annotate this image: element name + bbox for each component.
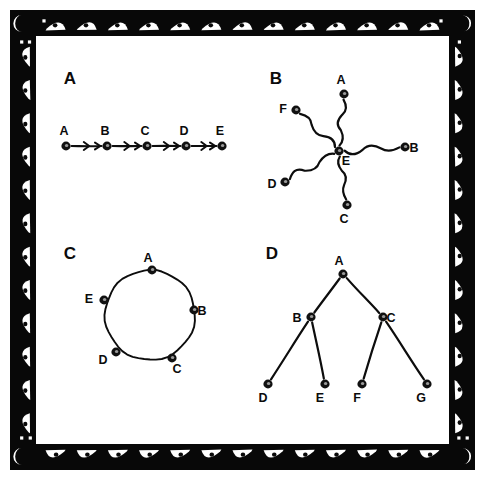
- node-label-panel-d-F: F: [353, 391, 361, 405]
- node-label-panel-b-F: F: [279, 102, 287, 116]
- node-panel-a-A[interactable]: [61, 142, 70, 151]
- node-highlight: [310, 315, 313, 318]
- motif-pupil: [23, 255, 27, 260]
- motif-pupil: [23, 322, 27, 327]
- motif-pupil: [23, 88, 27, 93]
- node-highlight: [343, 92, 346, 95]
- graph-topologies-figure: AABCDEBABCDEFCABCDEDABCDEFG: [0, 0, 485, 480]
- node-label-panel-b-A: A: [336, 73, 345, 87]
- motif-pupil: [23, 155, 27, 160]
- node-panel-c-E[interactable]: [99, 296, 108, 305]
- node-label-panel-b-B: B: [409, 141, 418, 155]
- motif-pupil: [458, 121, 462, 126]
- node-panel-c-D[interactable]: [111, 348, 120, 357]
- border-fleck-0: [20, 40, 23, 43]
- motif-pupil: [458, 54, 462, 59]
- node-label-panel-d-G: G: [416, 391, 426, 405]
- node-highlight: [193, 308, 196, 311]
- node-label-panel-d-C: C: [386, 311, 395, 325]
- node-highlight: [382, 315, 385, 318]
- node-label-panel-a-E: E: [216, 124, 224, 138]
- node-panel-b-B[interactable]: [400, 143, 409, 152]
- motif-pupil: [427, 23, 432, 27]
- motif-pupil: [395, 23, 400, 27]
- node-highlight: [426, 382, 429, 385]
- node-panel-d-D[interactable]: [263, 380, 272, 389]
- node-panel-b-C[interactable]: [342, 201, 351, 210]
- border-fleck-4: [458, 40, 461, 43]
- node-panel-d-B[interactable]: [306, 313, 315, 322]
- motif-pupil: [23, 222, 27, 227]
- node-panel-b-A[interactable]: [339, 90, 348, 99]
- motif-pupil: [428, 453, 433, 457]
- node-panel-a-B[interactable]: [102, 142, 111, 151]
- node-label-panel-c-C: C: [172, 362, 181, 376]
- node-panel-d-G[interactable]: [422, 380, 431, 389]
- node-highlight: [342, 272, 345, 275]
- node-highlight: [361, 382, 364, 385]
- node-highlight: [115, 350, 118, 353]
- node-highlight: [284, 180, 287, 183]
- motif-pupil: [365, 453, 370, 457]
- border-fleck-2: [42, 19, 45, 22]
- node-panel-c-A[interactable]: [147, 266, 156, 275]
- border-fleck-8: [466, 436, 469, 439]
- motif-pupil: [458, 221, 462, 226]
- motif-pupil: [84, 23, 89, 27]
- motif-pupil: [458, 354, 462, 359]
- node-label-panel-d-E: E: [316, 391, 324, 405]
- motif-pupil: [178, 453, 183, 457]
- node-panel-d-A[interactable]: [338, 270, 347, 279]
- node-label-panel-a-A: A: [59, 124, 68, 138]
- node-highlight: [338, 149, 341, 152]
- border-fleck-1: [28, 40, 31, 43]
- motif-pupil: [458, 387, 462, 392]
- motif-pupil: [333, 23, 338, 27]
- node-highlight: [295, 108, 298, 111]
- node-highlight: [324, 382, 327, 385]
- node-highlight: [103, 298, 106, 301]
- motif-pupil: [458, 87, 462, 92]
- node-panel-d-E[interactable]: [320, 380, 329, 389]
- node-panel-a-C[interactable]: [142, 142, 151, 151]
- motif-pupil: [458, 420, 462, 425]
- node-highlight: [404, 145, 407, 148]
- node-highlight: [346, 203, 349, 206]
- motif-pupil: [23, 288, 27, 293]
- node-highlight: [151, 268, 154, 271]
- node-panel-b-D[interactable]: [280, 178, 289, 187]
- motif-pupil: [146, 23, 151, 27]
- node-label-panel-b-C: C: [339, 212, 348, 226]
- node-highlight: [65, 144, 68, 147]
- motif-pupil: [397, 453, 402, 457]
- node-panel-b-F[interactable]: [291, 106, 300, 115]
- motif-pupil: [23, 55, 27, 60]
- node-highlight: [185, 144, 188, 147]
- figure-root: AABCDEBABCDEFCABCDEDABCDEFG: [0, 0, 485, 480]
- node-panel-a-E[interactable]: [217, 142, 226, 151]
- node-highlight: [106, 144, 109, 147]
- motif-pupil: [458, 287, 462, 292]
- motif-pupil: [85, 453, 90, 457]
- motif-pupil: [239, 23, 244, 27]
- motif-pupil: [302, 23, 307, 27]
- border-fleck-7: [457, 436, 460, 439]
- motif-pupil: [23, 188, 27, 193]
- motif-pupil: [53, 23, 58, 27]
- panel-label-c: C: [64, 244, 76, 263]
- motif-pupil: [177, 23, 182, 27]
- node-label-panel-c-E: E: [85, 292, 93, 306]
- border-fleck-5: [20, 436, 23, 439]
- node-label-panel-b-E: E: [342, 154, 350, 168]
- node-highlight: [171, 356, 174, 359]
- node-panel-a-D[interactable]: [181, 142, 190, 151]
- node-panel-d-F[interactable]: [357, 380, 366, 389]
- node-label-panel-a-D: D: [179, 124, 188, 138]
- border-fleck-6: [29, 436, 32, 439]
- motif-pupil: [334, 453, 339, 457]
- node-label-panel-b-D: D: [267, 177, 276, 191]
- node-label-panel-a-B: B: [100, 124, 109, 138]
- motif-pupil: [458, 320, 462, 325]
- motif-pupil: [116, 453, 121, 457]
- motif-pupil: [115, 23, 120, 27]
